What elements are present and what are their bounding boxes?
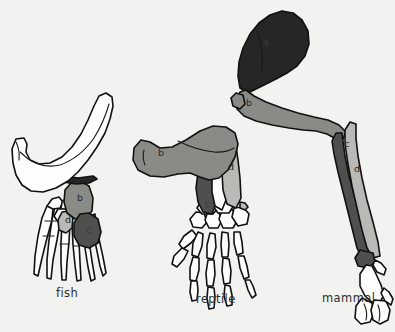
- limb-homology-illustration: b d c fish: [0, 0, 395, 332]
- fish-label-c: c: [85, 224, 90, 235]
- reptile-label-b: b: [158, 147, 164, 158]
- mammal-label-c: c: [344, 138, 349, 149]
- mammal-label-d: d: [354, 163, 360, 174]
- mammal-humerus-head: [231, 93, 245, 109]
- caption-reptile: reptile: [196, 292, 236, 306]
- fish-label-b: b: [77, 192, 83, 203]
- comparative-limb-figure: b d c fish: [0, 0, 395, 332]
- mammal-label-a: a: [263, 36, 269, 47]
- mammal-label-b: b: [246, 97, 252, 108]
- reptile-label-d: d: [228, 161, 234, 172]
- reptile-label-c: c: [204, 198, 209, 209]
- caption-mammal: mammal: [322, 291, 375, 305]
- caption-fish: fish: [56, 286, 78, 300]
- fish-label-d: d: [65, 214, 71, 225]
